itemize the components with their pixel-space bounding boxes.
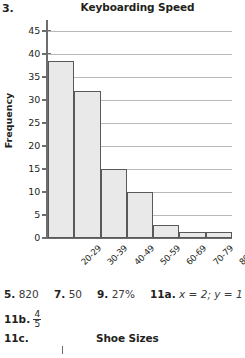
answer-value: x = 2; y = 1 <box>179 288 243 300</box>
answer-number: 11c. <box>4 332 29 344</box>
y-axis-tick-label: 30 <box>0 94 40 105</box>
bar <box>74 91 100 238</box>
answer-number: 5. <box>4 288 15 300</box>
y-axis-tick-label: 10 <box>0 186 40 197</box>
x-axis-tick-label: 20-29 <box>79 243 103 267</box>
y-axis-tick-label: 25 <box>0 117 40 128</box>
bar <box>48 61 74 238</box>
plot-area <box>48 20 232 238</box>
x-axis-tick-label: 60-69 <box>184 243 208 267</box>
bar <box>153 225 179 238</box>
answer-key: 5. 820 7. 50 9. 27% 11a. x = 2; y = 1 11… <box>0 286 245 352</box>
answer-number: 11b. <box>4 313 30 325</box>
fraction-denominator: 5 <box>33 320 41 329</box>
answer-row-2: 11b. 4 5 <box>0 308 245 330</box>
x-axis-tick-label: 50-59 <box>158 243 182 267</box>
bar <box>101 169 127 238</box>
bar <box>206 232 232 238</box>
answer-item-11a: 11a. x = 2; y = 1 <box>150 288 243 300</box>
answer-item-11b: 11b. 4 5 <box>4 310 41 329</box>
answer-value: 820 <box>19 288 39 300</box>
answer-number: 9. <box>97 288 108 300</box>
answer-item-5: 5. 820 <box>4 288 39 300</box>
y-axis-tick-label: 35 <box>0 71 40 82</box>
y-axis-tick-label: 0 <box>0 232 40 243</box>
bar <box>179 232 205 238</box>
answer-row-3: 11c. Shoe Sizes <box>0 330 245 352</box>
fraction-four-fifths: 4 5 <box>33 310 41 329</box>
x-axis-tick-label: 40-49 <box>132 243 156 267</box>
answer-number: 7. <box>54 288 65 300</box>
answer-value: 27% <box>112 288 135 300</box>
y-axis-tick-label: 20 <box>0 140 40 151</box>
y-axis-tick-label: 15 <box>0 163 40 174</box>
answer-item-7: 7. 50 <box>54 288 82 300</box>
x-axis-tick-label: 70-79 <box>211 243 235 267</box>
bar <box>127 192 153 238</box>
answer-value: 50 <box>69 288 82 300</box>
answer-item-9: 9. 27% <box>97 288 135 300</box>
answer-row-1: 5. 820 7. 50 9. 27% 11a. x = 2; y = 1 <box>0 286 245 308</box>
gridline <box>48 77 232 78</box>
shoe-sizes-axis-stub <box>62 346 63 354</box>
x-axis-tick-label: 80-89 <box>237 243 245 267</box>
shoe-sizes-chart-title: Shoe Sizes <box>96 332 159 344</box>
gridline <box>48 54 232 55</box>
answer-item-11c: 11c. <box>4 332 29 344</box>
x-axis-line <box>46 238 232 239</box>
x-axis-tick-labels: 20-2930-3940-4950-5960-6970-7980-89 <box>0 0 245 45</box>
keyboarding-speed-histogram: Keyboarding Speed Frequency 051015202530… <box>0 0 245 280</box>
answer-number: 11a. <box>150 288 176 300</box>
y-axis-tick-label: 40 <box>0 48 40 59</box>
x-axis-tick-label: 30-39 <box>105 243 129 267</box>
y-axis-tick-label: 5 <box>0 209 40 220</box>
